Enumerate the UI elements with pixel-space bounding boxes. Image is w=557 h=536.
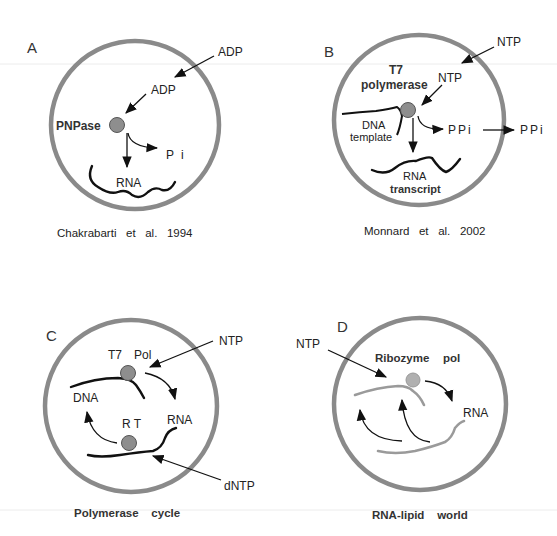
polymerase-label: polymerase bbox=[361, 78, 428, 92]
figure-canvas: A ADP ADP PNPase P i RNA Chakrabarti et … bbox=[0, 0, 557, 536]
caption: Chakrabarti et al. 1994 bbox=[57, 227, 193, 239]
ppi-release-arrow bbox=[418, 116, 443, 129]
panel-d: D NTP Ribozyme pol RNA RNA-lipid world bbox=[296, 318, 506, 521]
replication-arrow bbox=[425, 381, 452, 401]
ribozyme-pol-icon bbox=[406, 373, 420, 387]
panel-letter: C bbox=[46, 327, 57, 344]
ntp-inside-label: NTP bbox=[438, 71, 462, 85]
adp-inside-label: ADP bbox=[151, 83, 176, 97]
ntp-label: NTP bbox=[219, 334, 243, 348]
pnpase-enzyme-icon bbox=[110, 118, 125, 133]
adp-outside-label: ADP bbox=[218, 45, 243, 59]
rna-label: RNA bbox=[403, 170, 427, 182]
fold-arrow-right bbox=[402, 400, 430, 442]
pol-label: Pol bbox=[134, 348, 151, 362]
vesicle-membrane bbox=[45, 320, 217, 492]
caption: Polymerase cycle bbox=[74, 507, 180, 519]
dntp-influx-arrow bbox=[153, 456, 221, 480]
dna-label: DNA bbox=[73, 391, 98, 405]
rt-enzyme-icon bbox=[122, 436, 137, 451]
vesicle-membrane bbox=[334, 318, 506, 490]
t7-pol-enzyme-icon bbox=[121, 366, 136, 381]
t7-label: T7 bbox=[389, 63, 403, 77]
pnpase-label: PNPase bbox=[56, 119, 101, 133]
pol-label: pol bbox=[443, 352, 460, 364]
panel-letter: A bbox=[27, 39, 37, 56]
pi-release-arrow bbox=[128, 133, 157, 148]
adp-to-enzyme-arrow bbox=[126, 94, 146, 113]
panel-letter: B bbox=[324, 43, 334, 60]
panel-a: A ADP ADP PNPase P i RNA Chakrabarti et … bbox=[27, 39, 243, 239]
transcript-label: transcript bbox=[390, 183, 441, 195]
fold-arrow-left bbox=[360, 410, 402, 441]
caption: Monnard et al. 2002 bbox=[364, 225, 485, 237]
dna-label: DNA bbox=[362, 119, 386, 131]
t7-polymerase-enzyme-icon bbox=[401, 103, 416, 118]
template-label: template bbox=[350, 131, 392, 143]
ntp-outside-label: NTP bbox=[497, 35, 521, 49]
adp-influx-arrow bbox=[175, 56, 214, 77]
panel-c: C NTP T7 Pol DNA RNA R T dNTP Polymerase… bbox=[45, 320, 255, 519]
ppi-inside-label: PPi bbox=[448, 123, 473, 137]
rna-label: RNA bbox=[167, 413, 192, 427]
rna-strand bbox=[378, 421, 464, 453]
rna-label: RNA bbox=[116, 176, 141, 190]
transcription-arrow bbox=[145, 373, 175, 399]
ppi-outside-label: PPi bbox=[520, 123, 545, 137]
caption: RNA-lipid world bbox=[372, 509, 468, 521]
panel-letter: D bbox=[337, 318, 348, 335]
rna-label: RNA bbox=[463, 406, 488, 420]
panel-b: B NTP NTP T7 polymerase DNA template PPi… bbox=[324, 35, 545, 237]
ribozyme-label: Ribozyme bbox=[375, 352, 429, 364]
rt-label: R T bbox=[122, 417, 142, 431]
ribozyme-strand bbox=[355, 386, 424, 405]
reverse-transcription-arrow bbox=[87, 412, 117, 443]
t7-label: T7 bbox=[108, 348, 122, 362]
ntp-label: NTP bbox=[296, 337, 320, 351]
dntp-label: dNTP bbox=[224, 479, 255, 493]
pi-label: P i bbox=[166, 148, 186, 162]
